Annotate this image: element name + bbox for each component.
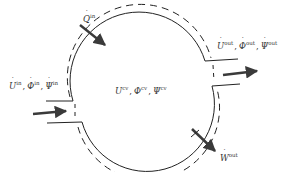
inlet-energy-sup: in [16,80,21,86]
heat-in-arrow [80,25,105,45]
separator: , [22,81,25,91]
separator: , [148,86,151,96]
inlet-pipe-bottom [47,122,82,123]
outlet-phi-sup: out [246,40,255,46]
cv-phi-symbol: Φ [134,86,141,96]
outlet-energy-sup: out [224,40,233,46]
separator: , [256,41,259,51]
inlet-phi-sup: in [34,80,39,86]
inlet-phi-symbol: Φ [27,82,34,91]
outlet-psi-symbol: Ψ [261,42,268,51]
system-wall-lower [82,86,214,171]
work-symbol: W [220,154,229,163]
work-sup: out [229,152,238,158]
cv-energy-sup: cv [122,85,128,91]
heat-in-label: Qin [83,14,95,24]
inlet-label: Uin,Φin,Ψin [9,81,58,91]
outlet-label: Uout,Φout,Ψout [217,41,277,51]
heat-sup: in [90,13,95,19]
inlet-energy-symbol: U [9,82,16,91]
outlet-pipe-bottom [212,84,240,86]
outlet-energy-symbol: U [217,42,224,51]
cv-phi-sup: cv [141,85,147,91]
separator: , [40,81,43,91]
heat-symbol: Q [83,15,90,24]
inlet-flow-arrow [33,111,66,114]
inlet-psi-symbol: Ψ [45,82,52,91]
inlet-psi-sup: in [53,80,58,86]
separator: , [129,86,132,96]
outlet-psi-sup: out [268,40,277,46]
control-volume-label: Ucv,Φcv,Ψcv [115,86,167,96]
separator: , [234,41,237,51]
work-out-label: Wout [220,153,238,163]
outlet-flow-arrow [223,71,257,75]
outlet-phi-symbol: Φ [239,42,246,51]
outlet-cv-cut [213,65,214,81]
outlet-pipe-top [205,59,238,61]
cv-psi-sup: cv [160,85,166,91]
